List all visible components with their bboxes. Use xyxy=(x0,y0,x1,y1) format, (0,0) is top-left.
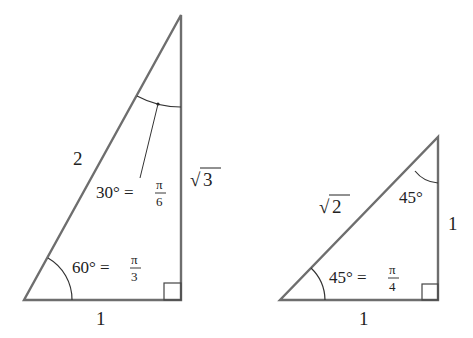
base-label: 1 xyxy=(96,308,106,329)
angle-45-numerator: π xyxy=(389,262,396,277)
triangle-30-60-90: 2 √ 3 1 30° = π 6 60° = π 3 xyxy=(24,15,221,329)
angle-45-denominator: 4 xyxy=(389,279,396,294)
triangle-45-45-90: √ 2 45° 1 1 45° = π 4 xyxy=(280,137,458,329)
angle-label-45-top: 45° xyxy=(399,188,423,207)
sqrt-value: 2 xyxy=(332,196,342,217)
angle-60-numerator: π xyxy=(131,252,138,267)
right-angle-marker xyxy=(422,284,438,300)
angle-60-denominator: 3 xyxy=(131,269,138,284)
angle-label-30: 30° = π 6 xyxy=(96,177,166,209)
angle-45-degrees: 45° = xyxy=(329,268,367,287)
angle-arc-60 xyxy=(48,258,72,300)
base-label: 1 xyxy=(359,308,369,329)
vertical-side-label: √ 3 xyxy=(190,168,221,190)
arc-pointer-line xyxy=(140,104,158,178)
angle-arc-30 xyxy=(137,96,181,107)
angle-60-degrees: 60° = xyxy=(72,258,110,277)
sqrt-sign: √ xyxy=(190,169,201,190)
angle-label-45-bottom: 45° = π 4 xyxy=(329,262,399,294)
angle-30-numerator: π xyxy=(156,177,163,192)
hypotenuse-label: 2 xyxy=(73,148,83,169)
sqrt-value: 3 xyxy=(203,169,213,190)
vertical-side-label: 1 xyxy=(448,213,458,234)
sqrt-sign: √ xyxy=(319,196,330,217)
hypotenuse-label: √ 2 xyxy=(319,195,350,217)
special-triangles-diagram: 2 √ 3 1 30° = π 6 60° = π 3 √ xyxy=(0,0,473,338)
angle-label-60: 60° = π 3 xyxy=(72,252,141,284)
angle-30-denominator: 6 xyxy=(156,194,163,209)
angle-arc-45-bottom xyxy=(311,268,325,300)
angle-30-degrees: 30° = xyxy=(96,183,134,202)
right-angle-marker xyxy=(164,283,181,300)
angle-arc-45-top xyxy=(415,171,438,183)
